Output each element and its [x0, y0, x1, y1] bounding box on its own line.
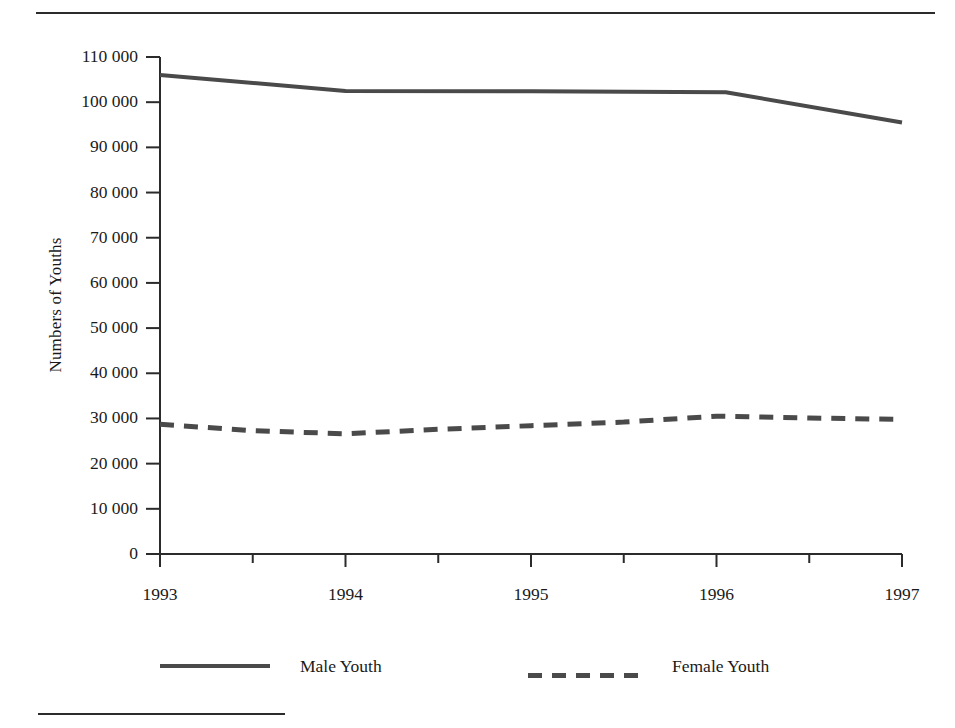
- x-tick-label: 1996: [657, 586, 777, 604]
- x-axis-ticks: [160, 554, 902, 567]
- legend-label-female-youth: Female Youth: [672, 656, 769, 677]
- y-axis-ticks: [146, 57, 160, 554]
- x-tick-label: 1997: [842, 586, 955, 604]
- y-tick-label: 10 000: [0, 500, 138, 518]
- chart-axes: [160, 57, 902, 566]
- series-line-female-youth: [160, 416, 902, 434]
- y-tick-label: 60 000: [0, 274, 138, 292]
- figure-page: Numbers of Youths 010 00020 00030 00040 …: [0, 0, 955, 728]
- series-layer: [160, 75, 902, 434]
- y-tick-label: 50 000: [0, 319, 138, 337]
- legend-swatch-dashed-icon: [528, 664, 640, 669]
- y-tick-label: 20 000: [0, 455, 138, 473]
- y-tick-label: 80 000: [0, 184, 138, 202]
- y-tick-label: 90 000: [0, 138, 138, 156]
- y-tick-label: 0: [0, 545, 138, 563]
- legend-item-female-youth: Female Youth: [528, 649, 769, 683]
- x-tick-label: 1994: [286, 586, 406, 604]
- y-tick-label: 40 000: [0, 364, 138, 382]
- legend-label-male-youth: Male Youth: [300, 656, 382, 677]
- chart-legend: Male Youth Female Youth: [0, 649, 955, 685]
- footnote-horizontal-rule: [38, 713, 285, 715]
- x-tick-label: 1995: [471, 586, 591, 604]
- chart-canvas: [0, 0, 955, 728]
- line-chart: Numbers of Youths 010 00020 00030 00040 …: [0, 0, 955, 728]
- x-tick-label: 1993: [100, 586, 220, 604]
- legend-item-male-youth: Male Youth: [160, 649, 382, 683]
- y-tick-label: 30 000: [0, 409, 138, 427]
- legend-swatch-solid-icon: [160, 664, 270, 668]
- y-tick-label: 100 000: [0, 93, 138, 111]
- series-line-male-youth: [160, 75, 902, 122]
- y-tick-label: 70 000: [0, 229, 138, 247]
- y-tick-label: 110 000: [0, 48, 138, 66]
